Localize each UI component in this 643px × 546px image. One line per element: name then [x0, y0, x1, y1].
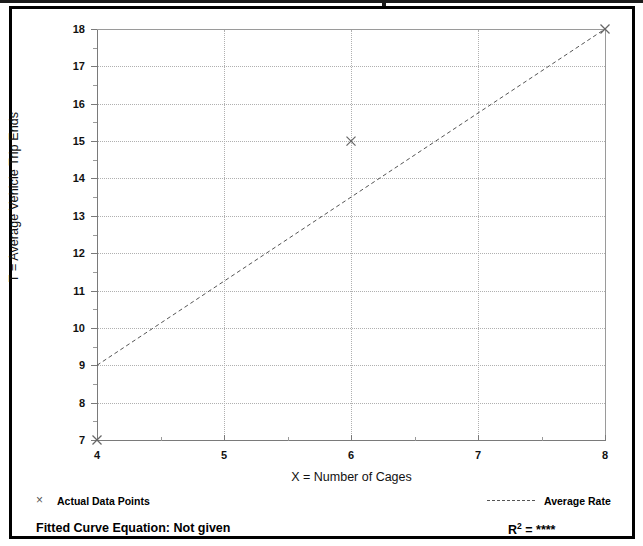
- y-axis-tick: [91, 365, 97, 366]
- x-axis-minor-tick: [161, 437, 162, 441]
- y-axis-minor-tick: [93, 85, 97, 86]
- y-axis-tick-label: 17: [57, 61, 85, 72]
- r-squared-equals: =: [522, 523, 536, 537]
- x-gridline: [478, 30, 479, 440]
- x-axis-tick: [351, 435, 352, 441]
- x-gridline: [351, 30, 352, 440]
- y-axis-tick: [91, 403, 97, 404]
- x-axis-tick-label: 4: [77, 450, 117, 461]
- y-axis-tick: [91, 29, 97, 30]
- y-axis-minor-tick: [93, 272, 97, 273]
- y-axis-tick-label: 10: [57, 323, 85, 334]
- x-axis-tick-label: 8: [585, 450, 625, 461]
- y-axis-minor-tick: [93, 384, 97, 385]
- x-axis-tick-label: 5: [204, 450, 244, 461]
- y-axis-minor-tick: [93, 309, 97, 310]
- y-axis-tick: [91, 66, 97, 67]
- y-axis-tick-label: 14: [57, 173, 85, 184]
- y-axis-line: [97, 29, 98, 441]
- top-rule-decoration: [0, 0, 643, 3]
- y-axis-tick-label: 7: [57, 435, 85, 446]
- x-axis-tick-label: 6: [331, 450, 371, 461]
- legend-x-marker-icon: ×: [36, 494, 43, 506]
- y-axis-minor-tick: [93, 160, 97, 161]
- r-squared-stars: ****: [536, 523, 555, 537]
- x-axis-minor-tick: [542, 437, 543, 441]
- x-axis-minor-tick: [288, 437, 289, 441]
- x-axis-tick: [224, 435, 225, 441]
- y-axis-tick-label: 18: [57, 24, 85, 35]
- plot-right-border: [605, 29, 606, 441]
- chart-page: 78910111213141516171845678 T = Average V…: [0, 0, 643, 546]
- x-gridline: [224, 30, 225, 440]
- y-axis-minor-tick: [93, 122, 97, 123]
- x-axis-tick-label: 7: [458, 450, 498, 461]
- y-axis-tick: [91, 178, 97, 179]
- y-axis-tick: [91, 328, 97, 329]
- legend-actual-data-points-label: Actual Data Points: [57, 495, 150, 507]
- y-axis-tick: [91, 141, 97, 142]
- y-axis-minor-tick: [93, 48, 97, 49]
- y-axis-tick-label: 15: [57, 136, 85, 147]
- y-axis-tick-label: 9: [57, 360, 85, 371]
- y-axis-tick-label: 13: [57, 211, 85, 222]
- legend-average-rate-label: Average Rate: [544, 495, 611, 507]
- r-squared-prefix: R: [508, 523, 517, 537]
- y-axis-tick: [91, 291, 97, 292]
- y-axis-tick: [91, 216, 97, 217]
- r-squared-value: R2 = ****: [508, 521, 555, 537]
- y-axis-title: T = Average Vehicle Trip Ends: [7, 0, 21, 407]
- y-axis-tick-label: 11: [57, 286, 85, 297]
- y-axis-minor-tick: [93, 197, 97, 198]
- x-axis-tick: [97, 435, 98, 441]
- y-axis-tick: [91, 253, 97, 254]
- y-axis-tick-label: 12: [57, 248, 85, 259]
- y-axis-minor-tick: [93, 421, 97, 422]
- x-axis-tick: [605, 435, 606, 441]
- y-axis-tick-label: 8: [57, 398, 85, 409]
- legend-dashed-line-icon: [487, 500, 535, 501]
- y-axis-minor-tick: [93, 347, 97, 348]
- y-axis-minor-tick: [93, 235, 97, 236]
- x-axis-title: X = Number of Cages: [97, 470, 606, 484]
- x-axis-minor-tick: [415, 437, 416, 441]
- y-axis-tick: [91, 104, 97, 105]
- fitted-curve-equation: Fitted Curve Equation: Not given: [36, 521, 230, 535]
- y-axis-tick-label: 16: [57, 99, 85, 110]
- x-axis-tick: [478, 435, 479, 441]
